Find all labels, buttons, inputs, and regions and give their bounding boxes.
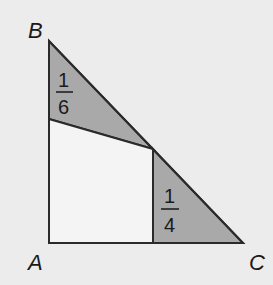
diagram-stage: B A C 1 6 1 4 (0, 0, 273, 285)
vertex-label-b: B (28, 18, 43, 43)
vertex-label-a: A (26, 250, 43, 275)
fraction-top-denominator: 6 (58, 96, 69, 118)
triangle-diagram: B A C 1 6 1 4 (0, 0, 273, 285)
fraction-top-numerator: 1 (58, 69, 69, 91)
fraction-right-numerator: 1 (164, 185, 175, 207)
fraction-right-denominator: 4 (164, 214, 175, 236)
vertex-label-c: C (249, 250, 265, 275)
